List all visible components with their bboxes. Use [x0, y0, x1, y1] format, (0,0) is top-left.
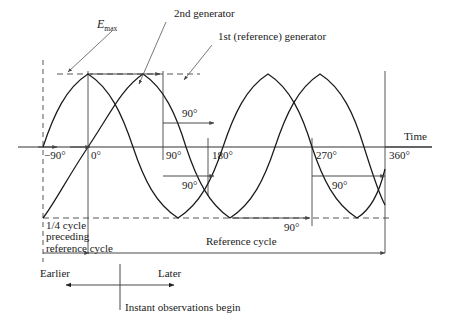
curve-reference-generator	[43, 74, 223, 218]
leader-second-generator	[139, 22, 166, 84]
later-label: Later	[158, 268, 181, 279]
phase-label-upper-mid: 90°	[182, 108, 197, 119]
phase-label-lower-left: 90°	[182, 180, 197, 191]
curve-second-generator	[43, 74, 230, 218]
quarter-cycle-line-3: reference cycle	[46, 243, 113, 254]
label-second-generator: 2nd generator	[174, 8, 235, 19]
earlier-label: Earlier	[40, 268, 70, 279]
quarter-cycle-note: 1/4 cycle preceding reference cycle	[46, 220, 113, 254]
curve-reference-generator-cont	[223, 74, 385, 218]
emax-subscript: max	[104, 24, 117, 33]
phase-label-lower-right: 90°	[332, 180, 347, 191]
tick-label-360deg: 360°	[389, 150, 410, 161]
leader-reference-generator	[184, 45, 212, 80]
tick-label-90deg: 90°	[166, 150, 181, 161]
tick-label-minus90: −90°	[44, 150, 66, 161]
label-reference-generator: 1st (reference) generator	[218, 31, 326, 42]
tick-label-0deg: 0°	[91, 150, 101, 161]
figure-canvas: Emax 2nd generator 1st (reference) gener…	[0, 0, 460, 325]
tick-label-180deg: 180°	[212, 150, 233, 161]
instant-observations-label: Instant observations begin	[125, 302, 240, 313]
curve-second-generator-cont	[230, 74, 385, 218]
emax-label: Emax	[97, 18, 117, 33]
leader-emax	[68, 31, 112, 72]
tick-label-270deg: 270°	[316, 150, 337, 161]
time-axis-label: Time	[404, 131, 427, 142]
phase-label-trough: 90°	[284, 222, 299, 233]
reference-cycle-label: Reference cycle	[206, 236, 277, 247]
